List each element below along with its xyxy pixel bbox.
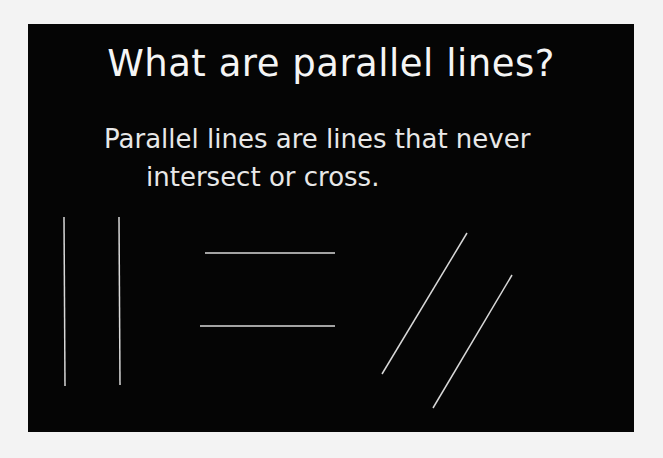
slide: What are parallel lines? Parallel lines … xyxy=(28,24,634,432)
vertical-parallel-lines xyxy=(64,217,120,386)
diagonal-parallel-lines xyxy=(382,233,512,408)
horizontal-parallel-lines xyxy=(200,253,335,326)
parallel-lines-diagram xyxy=(28,24,634,432)
